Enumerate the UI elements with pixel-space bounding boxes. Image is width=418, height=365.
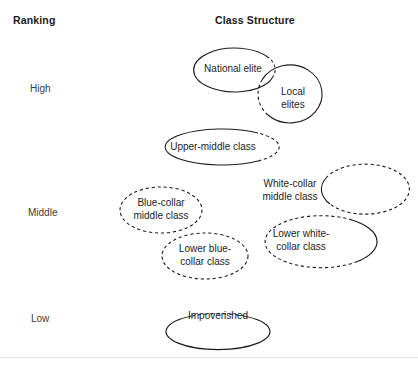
ellipse-outlines-layer (0, 0, 418, 365)
bottom-divider (0, 357, 418, 358)
ellipse-lower-blue-collar-class (162, 233, 248, 279)
ellipse-white-collar-middle-class (321, 164, 409, 214)
ellipse-lower-white-collar-class (265, 216, 377, 268)
ellipse-upper-middle-class (165, 129, 279, 165)
class-structure-diagram: Ranking Class Structure High Middle Low (0, 0, 418, 365)
ellipse-blue-collar-middle-class (120, 187, 202, 233)
ellipse-impoverished (166, 314, 270, 350)
ellipse-local-elites (258, 65, 322, 123)
ellipse-national-elite (194, 48, 275, 92)
